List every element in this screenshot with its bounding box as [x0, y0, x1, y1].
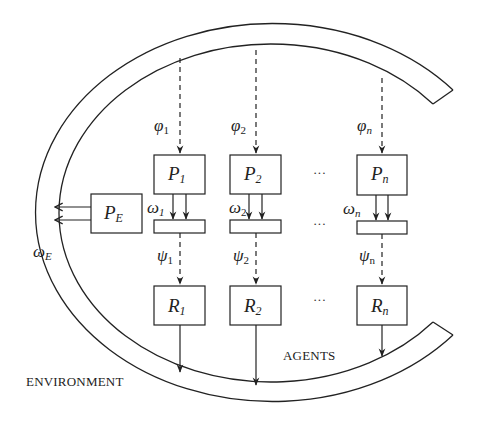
- decision-label-1: ψ1: [157, 247, 173, 266]
- action-label-n: ωn: [343, 200, 361, 219]
- response-node-r1: R1: [168, 296, 186, 317]
- environment-region-label: ENVIRONMENT: [26, 375, 124, 388]
- ellipsis-bar-row: ···: [313, 217, 326, 230]
- perception-node-p1: P1: [168, 164, 186, 185]
- environment-node-graphics: [55, 194, 142, 233]
- action-label-2: ω2: [229, 199, 247, 218]
- perception-label-n: φn: [357, 117, 372, 136]
- decision-label-n: ψn: [359, 247, 375, 266]
- action-label-1: ω1: [147, 199, 165, 218]
- response-node-r2: R2: [244, 296, 262, 317]
- decision-label-2: ψ2: [233, 247, 249, 266]
- perception-node-pn: Pn: [371, 164, 389, 185]
- environment-node-pe: PE: [104, 203, 123, 224]
- ellipsis-p-row: ···: [313, 166, 326, 179]
- ellipsis-r-row: ···: [313, 293, 326, 306]
- perception-label-1: φ1: [154, 117, 169, 136]
- perception-node-p2: P2: [244, 164, 262, 185]
- perception-label-2: φ2: [231, 117, 246, 136]
- agents-region-label: AGENTS: [283, 349, 335, 362]
- multi-agent-diagram: φ1 P1 ω1 ψ1 R1 φ2 P2 ω2 ψ2 R2 φn Pn ωn ψ…: [0, 0, 482, 431]
- environment-output-label: ωE: [33, 243, 52, 262]
- response-node-rn: Rn: [371, 296, 389, 317]
